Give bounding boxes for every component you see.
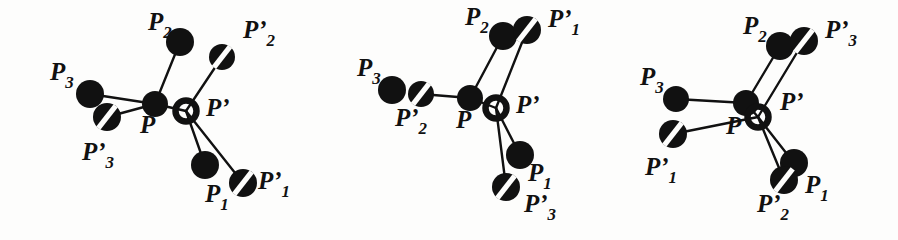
panel-1: P2P’2P3P’3PP’P1P’1 (49, 8, 290, 214)
node-P3 (663, 86, 689, 112)
label-P-prime: P’ (205, 94, 230, 121)
label-P: P (725, 112, 742, 139)
node-P3 (378, 76, 406, 104)
label-P-prime-2: P’2 (394, 104, 428, 138)
node-P2 (489, 22, 517, 50)
node-P-prime-2 (209, 44, 235, 70)
panel-2: P2P’1P3P’2PP’P1P’3 (356, 3, 580, 224)
label-P-prime-1: P’1 (547, 5, 580, 39)
node-P-prime-3 (93, 103, 121, 131)
label-P-prime-2: P’2 (242, 16, 276, 50)
label-P1: P1 (204, 180, 229, 214)
figure-root: P2P’2P3P’3PP’P1P’1P2P’1P3P’2PP’P1P’3P2P’… (0, 0, 898, 240)
label-P1: P1 (527, 159, 552, 193)
panel-3: P2P’3P3P’1PP’P1P’2 (639, 12, 858, 224)
label-P-prime-1: P’1 (257, 167, 290, 201)
node-P-prime-3 (492, 173, 520, 201)
label-P1: P1 (804, 171, 829, 205)
label-P-prime-1: P’1 (644, 153, 677, 187)
label-P3: P3 (356, 54, 381, 88)
node-P1 (191, 151, 219, 179)
figure-canvas: P2P’2P3P’3PP’P1P’1P2P’1P3P’2PP’P1P’3P2P’… (0, 0, 898, 240)
node-P-prime-1 (513, 16, 541, 44)
node-P2 (766, 32, 794, 60)
panel-1-nodes (76, 28, 257, 197)
label-P-prime-3: P’3 (523, 190, 557, 224)
node-P3 (76, 80, 104, 108)
label-P-prime-3: P’3 (81, 138, 115, 172)
label-P3: P3 (639, 63, 664, 97)
label-P: P (455, 106, 472, 133)
label-P-prime: P’ (515, 91, 540, 118)
node-P-prime-1 (659, 120, 687, 148)
label-P3: P3 (49, 58, 74, 92)
label-P-prime: P’ (779, 88, 804, 115)
node-P-prime-1 (229, 169, 257, 197)
label-P2: P2 (147, 8, 172, 42)
label-P-prime-2: P’2 (756, 190, 790, 224)
label-P2: P2 (742, 12, 767, 46)
label-P: P (139, 111, 156, 138)
panel-2-labels: P2P’1P3P’2PP’P1P’3 (356, 3, 580, 224)
label-P-prime-3: P’3 (824, 16, 858, 50)
label-P2: P2 (464, 3, 489, 37)
node-P-prime-3 (790, 27, 818, 55)
